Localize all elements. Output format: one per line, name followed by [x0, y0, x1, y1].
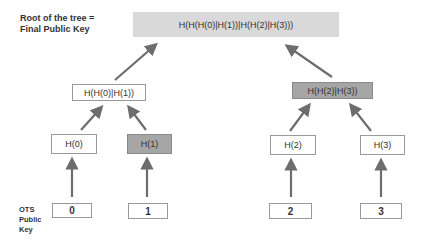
arrow-h01-to-root — [115, 47, 153, 80]
arrow-h0-to-h01 — [81, 110, 99, 130]
arrow-h1-to-h01 — [131, 110, 146, 130]
arrow-h23-to-root — [290, 48, 332, 77]
arrow-h2-to-h23 — [290, 108, 307, 131]
arrow-h3-to-h23 — [353, 108, 371, 131]
arrows — [0, 0, 425, 246]
